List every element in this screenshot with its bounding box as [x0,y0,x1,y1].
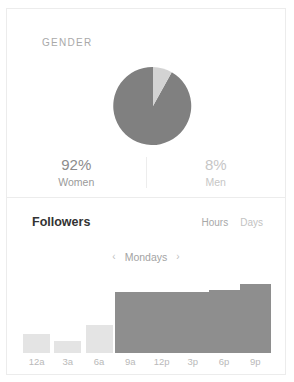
stat-women: 92% Women [7,155,146,191]
gender-pie-chart [111,64,195,148]
bar-12p[interactable] [146,292,177,353]
followers-header: Followers Hours Days [7,215,285,233]
axis-tick-9p: 9p [240,356,271,367]
bar-slot [146,280,177,353]
bar-6p[interactable] [209,290,240,353]
bar-3p[interactable] [177,292,208,353]
analytics-card: GENDER 92% Women 8% Men [6,8,286,375]
followers-bar-chart: 12a3a6a9a12p3p6p9p [7,280,285,375]
range-option-days[interactable]: Days [240,217,263,228]
axis-tick-6p: 6p [209,356,240,367]
axis-tick-3p: 3p [177,356,208,367]
bar-slot [209,280,240,353]
bar-slot [52,280,83,353]
stat-men-label: Men [147,174,286,191]
chevron-left-icon[interactable]: ‹ [112,251,115,263]
bar-9a[interactable] [115,292,146,353]
axis-tick-6a: 6a [84,356,115,367]
bar-slot [177,280,208,353]
axis-tick-3a: 3a [52,356,83,367]
bar-slot [21,280,52,353]
stat-women-value: 92% [7,155,146,174]
axis-tick-12p: 12p [146,356,177,367]
stat-men-value: 8% [147,155,286,174]
bar-axis-labels: 12a3a6a9a12p3p6p9p [21,356,271,367]
stat-women-label: Women [7,174,146,191]
page-title: GENDER [42,37,93,48]
bar-6a[interactable] [86,325,113,353]
followers-section: Followers Hours Days ‹ Mondays › 12a3a6a… [7,198,285,375]
range-option-hours[interactable]: Hours [202,217,229,228]
axis-tick-12a: 12a [21,356,52,367]
gender-section: GENDER 92% Women 8% Men [7,9,285,197]
chevron-right-icon[interactable]: › [176,251,179,263]
followers-title: Followers [32,215,90,229]
day-navigator: ‹ Mondays › [7,251,285,263]
pie-svg [111,64,195,148]
axis-tick-9a: 9a [115,356,146,367]
range-toggle[interactable]: Hours Days [202,217,263,228]
stat-men: 8% Men [147,155,286,191]
pie-slice-women [113,67,191,145]
bar-9p[interactable] [240,284,271,353]
bar-series [21,280,271,353]
bar-slot [115,280,146,353]
bar-12a[interactable] [23,334,50,353]
bar-slot [240,280,271,353]
bar-slot [84,280,115,353]
bar-3a[interactable] [54,341,81,353]
day-nav-label: Mondays [125,251,168,263]
screenshot-root: GENDER 92% Women 8% Men [0,0,294,382]
gender-stats: 92% Women 8% Men [7,155,285,191]
